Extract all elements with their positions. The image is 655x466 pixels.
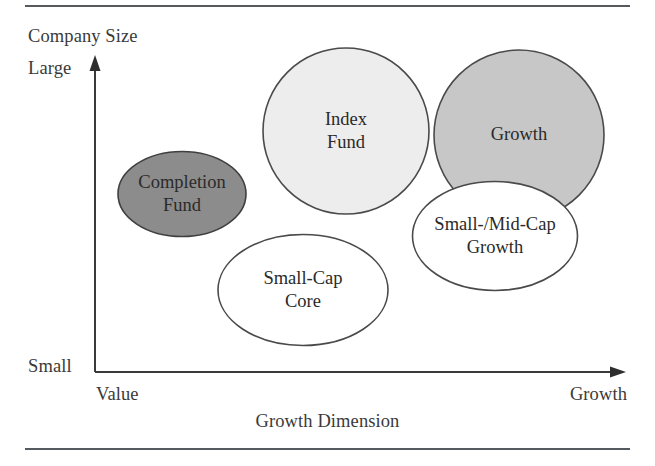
- x-axis-title: Growth Dimension: [0, 412, 655, 431]
- bubble-shape-small-mid-cap-growth[interactable]: [413, 182, 578, 291]
- figure-container: Company Size Large Small Value Growth Gr…: [0, 0, 655, 466]
- bubble-shape-index-fund[interactable]: [263, 48, 429, 214]
- x-axis-left-label: Value: [96, 385, 139, 404]
- y-axis-arrowhead-icon: [90, 55, 101, 71]
- bubble-shape-completion-fund[interactable]: [118, 152, 246, 237]
- bubble-shapes: [118, 48, 604, 346]
- y-axis-title: Company Size: [28, 27, 138, 46]
- y-axis-bottom-label: Small: [28, 357, 72, 376]
- y-axis-top-label: Large: [28, 59, 71, 78]
- bubble-shape-small-cap-core[interactable]: [218, 235, 388, 346]
- x-axis-right-label: Growth: [570, 385, 627, 404]
- x-axis-arrowhead-icon: [610, 367, 626, 378]
